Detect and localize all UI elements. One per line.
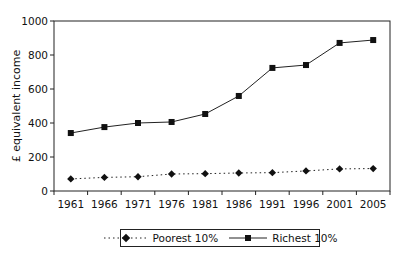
series-richest bbox=[68, 37, 376, 136]
series-poorest bbox=[67, 165, 377, 183]
legend: Poorest 10% Richest 10% bbox=[120, 229, 320, 247]
x-tick-label: 1996 bbox=[293, 198, 320, 210]
square-marker bbox=[370, 37, 376, 43]
diamond-marker bbox=[370, 165, 377, 172]
y-tick-label: 600 bbox=[28, 83, 48, 95]
y-tick-label: 400 bbox=[28, 117, 48, 129]
diamond-marker bbox=[67, 175, 74, 182]
diamond-marker bbox=[302, 167, 309, 174]
y-tick-label: 1000 bbox=[21, 15, 48, 27]
square-marker bbox=[236, 93, 242, 99]
x-tick-label: 1961 bbox=[57, 198, 84, 210]
square-marker bbox=[135, 120, 141, 126]
diamond-marker bbox=[336, 165, 343, 172]
line-chart: 02004006008001000 1961196619711976198119… bbox=[0, 0, 406, 266]
diamond-marker bbox=[168, 170, 175, 177]
diamond-marker bbox=[202, 170, 209, 177]
x-tick-label: 1971 bbox=[125, 198, 152, 210]
x-tick-label: 1981 bbox=[192, 198, 219, 210]
x-tick-label: 1966 bbox=[91, 198, 118, 210]
square-marker bbox=[169, 119, 175, 125]
square-marker bbox=[303, 62, 309, 68]
dotted-diamond-line-icon bbox=[103, 233, 149, 243]
diamond-marker bbox=[101, 174, 108, 181]
y-tick-label: 800 bbox=[28, 49, 48, 61]
legend-item-richest: Richest 10% bbox=[228, 232, 337, 244]
x-tick-label: 2005 bbox=[360, 198, 387, 210]
legend-label-richest: Richest 10% bbox=[272, 232, 337, 244]
x-tick-label: 1976 bbox=[158, 198, 185, 210]
x-tick-label: 2001 bbox=[326, 198, 353, 210]
legend-item-poorest: Poorest 10% bbox=[103, 232, 219, 244]
diamond-marker bbox=[134, 173, 141, 180]
x-tick-label: 1986 bbox=[225, 198, 252, 210]
square-marker bbox=[269, 65, 275, 71]
square-marker bbox=[337, 40, 343, 46]
series-group bbox=[67, 37, 377, 183]
square-marker bbox=[101, 124, 107, 130]
y-tick-label: 200 bbox=[28, 151, 48, 163]
x-axis: 1961196619711976198119861991199620012005 bbox=[54, 191, 390, 210]
y-axis-title: £ equivalent income bbox=[10, 50, 23, 163]
y-axis: 02004006008001000 bbox=[21, 15, 54, 197]
x-tick-label: 1991 bbox=[259, 198, 286, 210]
legend-label-poorest: Poorest 10% bbox=[153, 232, 219, 244]
y-tick-label: 0 bbox=[41, 185, 48, 197]
solid-square-line-icon bbox=[228, 233, 268, 243]
diamond-marker bbox=[269, 169, 276, 176]
square-marker bbox=[68, 130, 74, 136]
diamond-marker bbox=[235, 169, 242, 176]
square-marker bbox=[202, 111, 208, 117]
